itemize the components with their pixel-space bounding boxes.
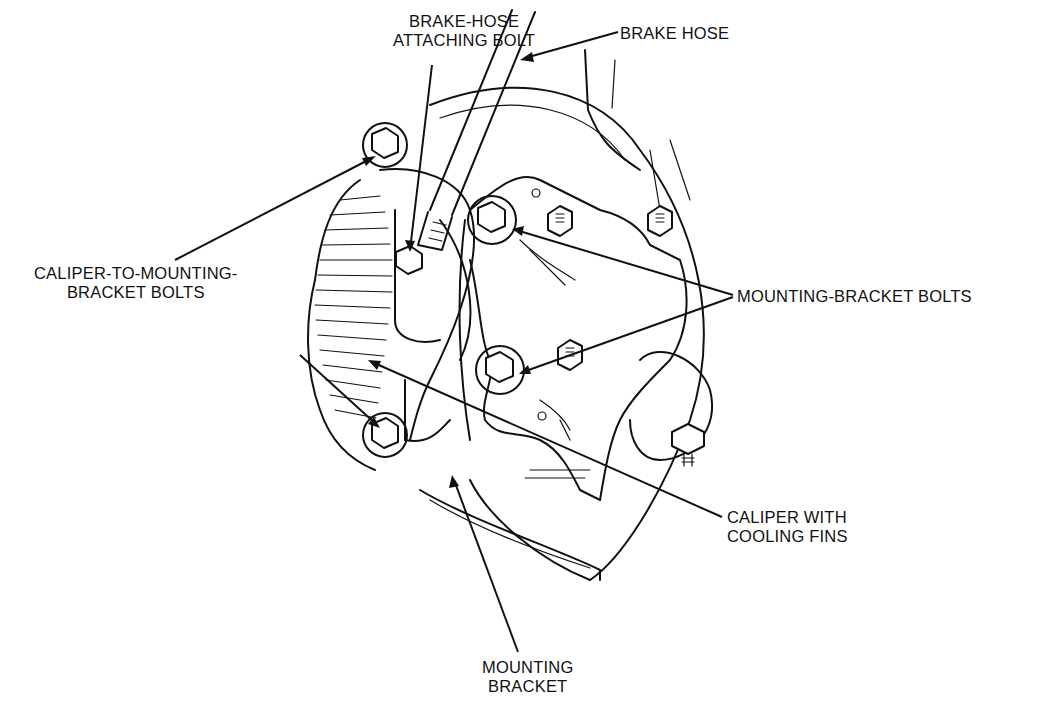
label-mounting-bracket: MOUNTING BRACKET <box>482 658 573 696</box>
mounting-bracket-bolt-upper <box>468 196 516 244</box>
tie-rod-nut <box>672 424 704 466</box>
stud-nut-1 <box>548 206 572 236</box>
label-caliper-to-mounting-bracket-bolts: CALIPER-TO-MOUNTING- BRACKET BOLTS <box>34 264 238 302</box>
label-caliper-with-cooling-fins: CALIPER WITH COOLING FINS <box>727 508 848 546</box>
label-brake-hose: BRAKE HOSE <box>620 24 729 43</box>
leader-lines <box>175 32 733 652</box>
brake-caliper-diagram: BRAKE-HOSE ATTACHING BOLT BRAKE HOSE CAL… <box>0 0 1050 724</box>
bolts <box>363 123 704 466</box>
label-brake-hose-attaching-bolt: BRAKE-HOSE ATTACHING BOLT <box>393 12 535 50</box>
label-mounting-bracket-bolts: MOUNTING-BRACKET BOLTS <box>737 287 972 306</box>
line-drawing <box>0 0 1050 724</box>
mounting-bracket-bolt-lower <box>476 346 524 394</box>
stud-nut-2 <box>648 206 672 236</box>
hose-attaching-bolt <box>396 246 422 274</box>
